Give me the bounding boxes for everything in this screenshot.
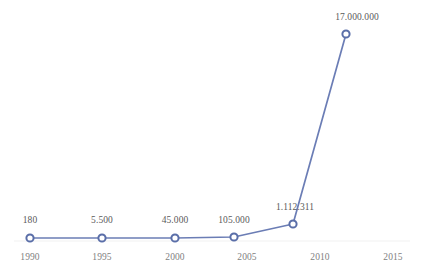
chart-container: 180 5.500 45.000 105.000 1.112.311 17.00… <box>0 0 421 273</box>
x-tick-label-1995: 1995 <box>92 252 111 262</box>
x-tick-label-2005: 2005 <box>237 252 256 262</box>
data-label-3: 105.000 <box>218 215 250 225</box>
data-label-2: 45.000 <box>162 215 189 225</box>
data-point-marker[interactable] <box>342 30 349 37</box>
data-label-1: 5.500 <box>91 215 113 225</box>
line-chart-plot <box>0 0 421 273</box>
data-label-4: 1.112.311 <box>276 202 314 212</box>
data-point-marker[interactable] <box>230 233 237 240</box>
data-point-marker[interactable] <box>289 220 296 227</box>
x-tick-label-2015: 2015 <box>383 252 402 262</box>
x-tick-label-2000: 2000 <box>165 252 184 262</box>
x-tick-label-1990: 1990 <box>20 252 39 262</box>
data-label-5: 17.000.000 <box>335 12 379 22</box>
data-point-marker[interactable] <box>171 234 178 241</box>
data-label-0: 180 <box>23 215 38 225</box>
x-tick-label-2010: 2010 <box>310 252 329 262</box>
data-point-marker[interactable] <box>26 234 33 241</box>
data-point-marker[interactable] <box>98 234 105 241</box>
